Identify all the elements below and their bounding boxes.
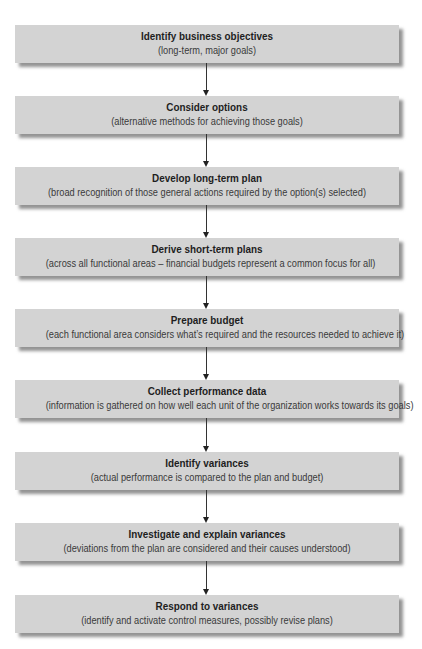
step-identify-business-objectives: Identify business objectives (long-term,…: [15, 25, 399, 63]
step-subtitle: (alternative methods for achieving those…: [46, 114, 369, 128]
step-title: Respond to variances: [42, 599, 372, 613]
step-subtitle: (information is gathered on how well eac…: [46, 398, 369, 412]
step-title: Investigate and explain variances: [42, 527, 372, 541]
step-title: Develop long-term plan: [42, 171, 372, 185]
step-subtitle: (actual performance is compared to the p…: [46, 470, 369, 484]
arrow-down-icon: [206, 561, 208, 595]
arrow-down-icon: [206, 205, 208, 238]
step-title: Consider options: [42, 100, 372, 114]
step-title: Identify business objectives: [42, 29, 372, 43]
step-subtitle: (broad recognition of those general acti…: [46, 185, 369, 199]
step-consider-options: Consider options (alternative methods fo…: [15, 96, 399, 134]
step-title: Collect performance data: [42, 384, 372, 398]
step-identify-variances: Identify variances (actual performance i…: [15, 452, 399, 490]
arrow-down-icon: [206, 134, 208, 167]
arrow-down-icon: [206, 347, 208, 380]
step-collect-performance-data: Collect performance data (information is…: [15, 380, 399, 418]
arrow-down-icon: [206, 63, 208, 96]
step-title: Identify variances: [42, 456, 372, 470]
budget-control-flowchart: Identify business objectives (long-term,…: [0, 0, 422, 649]
arrow-down-icon: [206, 490, 208, 523]
step-subtitle: (deviations from the plan are considered…: [46, 541, 369, 555]
step-subtitle: (long-term, major goals): [46, 43, 369, 57]
step-prepare-budget: Prepare budget (each functional area con…: [15, 309, 399, 347]
arrow-down-icon: [206, 418, 208, 452]
step-develop-long-term-plan: Develop long-term plan (broad recognitio…: [15, 167, 399, 205]
step-title: Prepare budget: [42, 313, 372, 327]
arrow-down-icon: [206, 276, 208, 309]
step-derive-short-term-plans: Derive short-term plans (across all func…: [15, 238, 399, 276]
step-subtitle: (identify and activate control measures,…: [46, 613, 369, 627]
step-subtitle: (across all functional areas – financial…: [46, 256, 369, 270]
step-investigate-explain-variances: Investigate and explain variances (devia…: [15, 523, 399, 561]
step-respond-to-variances: Respond to variances (identify and activ…: [15, 595, 399, 633]
step-title: Derive short-term plans: [42, 242, 372, 256]
step-subtitle: (each functional area considers what’s r…: [46, 327, 369, 341]
